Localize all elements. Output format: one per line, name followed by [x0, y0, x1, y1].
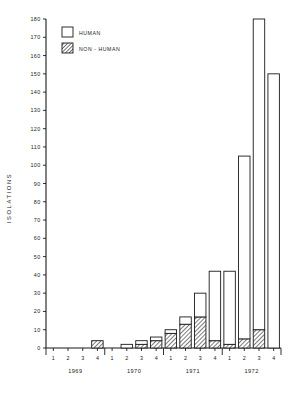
y-tick-label: 90 — [34, 181, 41, 187]
chart-container: ISOLATIONS 01020304050607080901001101201… — [0, 0, 288, 398]
bar-segment-human — [194, 293, 205, 317]
bar-segment-human — [180, 317, 191, 324]
y-tick-label: 140 — [30, 89, 40, 95]
legend-swatch-human — [62, 27, 73, 37]
x-tick-label: 2 — [67, 355, 70, 361]
legend-label-human: HUMAN — [79, 30, 101, 36]
x-tick-label: 2 — [243, 355, 246, 361]
y-tick-label: 130 — [30, 107, 40, 113]
bar-segment-human — [136, 341, 147, 345]
bar-segment-non-human — [224, 344, 235, 348]
y-tick-label: 10 — [34, 327, 41, 333]
x-tick-label: 4 — [155, 355, 158, 361]
bar-segment-human — [165, 330, 176, 334]
bar-segment-human — [253, 19, 264, 330]
y-tick-label: 100 — [30, 162, 40, 168]
x-tick-label: 1 — [111, 355, 114, 361]
y-tick-label: 0 — [37, 345, 40, 351]
bar-segment-human — [268, 74, 279, 348]
y-tick-label: 80 — [34, 199, 41, 205]
bar-segment-human — [239, 156, 250, 339]
x-tick-label: 4 — [96, 355, 99, 361]
x-tick-label: 3 — [257, 355, 260, 361]
x-tick-label: 1 — [228, 355, 231, 361]
y-tick-label: 120 — [30, 126, 40, 132]
bar-chart-svg: ISOLATIONS 01020304050607080901001101201… — [0, 0, 288, 398]
y-tick-label: 160 — [30, 53, 40, 59]
year-label: 1969 — [68, 368, 82, 374]
year-label: 1970 — [127, 368, 141, 374]
y-tick-label: 60 — [34, 235, 41, 241]
y-tick-label: 70 — [34, 217, 41, 223]
x-tick-label: 4 — [272, 355, 275, 361]
bar-segment-non-human — [209, 341, 220, 348]
x-tick-label: 2 — [184, 355, 187, 361]
bar-segment-human — [121, 344, 132, 348]
x-tick-label: 3 — [199, 355, 202, 361]
bar-segment-non-human — [253, 330, 264, 348]
legend-label-non-human: NON - HUMAN — [79, 46, 120, 52]
y-axis-title: ISOLATIONS — [6, 173, 12, 223]
bar-segment-non-human — [150, 341, 161, 348]
legend-swatch-non-human — [62, 43, 73, 53]
year-label: 1971 — [186, 368, 200, 374]
bar-segment-non-human — [180, 324, 191, 348]
x-tick-label: 1 — [169, 355, 172, 361]
bar-segment-non-human — [194, 317, 205, 348]
x-tick-label: 3 — [81, 355, 84, 361]
bar-segment-human — [150, 337, 161, 341]
year-label: 1972 — [244, 368, 258, 374]
y-tick-label: 150 — [30, 71, 40, 77]
y-tick-label: 20 — [34, 308, 41, 314]
bar-segment-non-human — [239, 339, 250, 348]
x-tick-label: 4 — [213, 355, 216, 361]
bar-segment-human — [224, 271, 235, 344]
bar-segment-human — [209, 271, 220, 340]
x-tick-label: 3 — [140, 355, 143, 361]
y-tick-label: 110 — [31, 144, 41, 150]
y-tick-label: 40 — [34, 272, 41, 278]
x-tick-label: 1 — [52, 355, 55, 361]
y-tick-label: 170 — [30, 34, 40, 40]
x-tick-label: 2 — [125, 355, 128, 361]
bar-segment-non-human — [92, 341, 103, 348]
bar-segment-non-human — [136, 344, 147, 348]
y-tick-label: 180 — [30, 16, 40, 22]
y-tick-label: 50 — [34, 254, 41, 260]
bar-segment-non-human — [165, 333, 176, 348]
y-tick-label: 30 — [34, 290, 41, 296]
